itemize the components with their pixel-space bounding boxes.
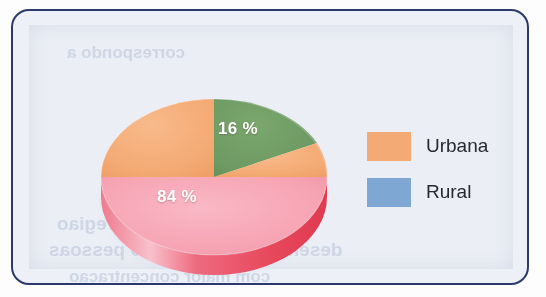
pie-chart-svg	[91, 81, 343, 277]
pie-slice-orange	[101, 99, 214, 177]
pie-label-pink: 84 %	[157, 187, 197, 207]
legend-swatch-urbana-icon	[367, 132, 411, 161]
legend-swatch-rural-icon	[367, 178, 411, 207]
pie-chart: 16 % 84 %	[91, 81, 343, 277]
legend-label-urbana: Urbana	[426, 135, 488, 157]
chart-legend: Urbana Rural	[367, 123, 517, 215]
figure-frame: correspondo a mais rapido ao regiao dese…	[11, 9, 529, 285]
figure-root: correspondo a mais rapido ao regiao dese…	[0, 0, 546, 297]
legend-item-rural: Rural	[367, 169, 517, 215]
figure-panel: correspondo a mais rapido ao regiao dese…	[29, 25, 513, 269]
ghost-text-line-1: correspondo a	[67, 43, 185, 63]
legend-item-urbana: Urbana	[367, 123, 517, 169]
legend-label-rural: Rural	[426, 181, 471, 203]
pie-label-green: 16 %	[218, 119, 258, 139]
